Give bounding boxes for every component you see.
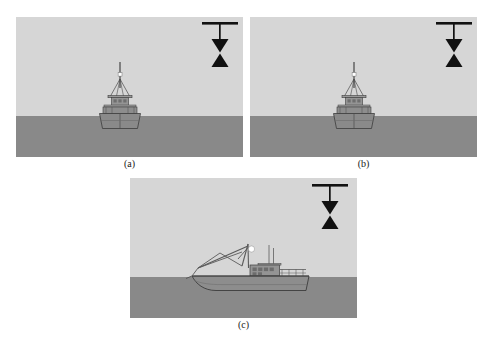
caption-c: (c): [130, 319, 357, 330]
vessel-bow-on-a: [100, 62, 141, 129]
upper-cone-point-down-icon: [212, 39, 229, 53]
boom-lift-c: [198, 253, 220, 268]
upper-cone-point-down-icon: [322, 201, 339, 215]
day-shape-a: [202, 22, 238, 67]
hoist-line-a: [219, 24, 221, 40]
boom-stay-c: [198, 252, 242, 268]
panel-c: [130, 178, 357, 318]
window-c-5: [253, 272, 257, 275]
day-shape-b: [436, 22, 472, 67]
window-a-3: [123, 99, 126, 102]
shroud-starboard-a: [120, 79, 130, 96]
panel-c-artwork: [130, 178, 357, 318]
masthead-light-c: [248, 246, 254, 252]
panel-a: [16, 17, 243, 157]
caption-b: (b): [250, 158, 477, 169]
window-a-1: [114, 99, 117, 102]
figure-container: (a): [0, 0, 489, 342]
deckhouse-top-a: [104, 105, 136, 107]
lower-cone-point-up-icon: [322, 216, 339, 230]
window-c-1: [253, 268, 257, 272]
masthead-light-a: [118, 73, 122, 77]
window-b-1: [348, 99, 351, 102]
panel-b-artwork: [250, 17, 477, 157]
shroud-port-a: [111, 79, 121, 96]
vessel-bow-on-b: [334, 62, 375, 129]
forestay-c: [192, 268, 198, 276]
window-a-2: [118, 99, 121, 102]
deckhouse-top-b: [338, 105, 370, 107]
lower-cone-point-up-icon: [212, 54, 229, 68]
caption-a: (a): [16, 158, 243, 169]
window-b-2: [352, 99, 355, 102]
panel-b: [250, 17, 477, 157]
window-c-6: [258, 272, 262, 275]
upper-cone-point-down-icon: [446, 39, 463, 53]
boom-topping-lift-c: [220, 253, 242, 266]
window-c-2: [258, 268, 262, 272]
hoist-line-c: [329, 186, 331, 202]
masthead-light-b: [352, 73, 356, 77]
superstructure-b: [337, 107, 371, 114]
vessel-trawler-profile-c: [186, 244, 309, 291]
window-b-3: [357, 99, 360, 102]
shroud-port-b: [345, 79, 355, 96]
day-shape-c: [312, 184, 348, 229]
shroud-starboard-b: [354, 79, 364, 96]
window-c-3: [264, 268, 268, 272]
window-c-4: [270, 268, 274, 272]
panel-a-artwork: [16, 17, 243, 157]
hoist-line-b: [453, 24, 455, 40]
hull-c: [192, 276, 309, 291]
lower-cone-point-up-icon: [446, 54, 463, 68]
superstructure-a: [103, 107, 137, 114]
bowsprit-c: [186, 276, 192, 279]
